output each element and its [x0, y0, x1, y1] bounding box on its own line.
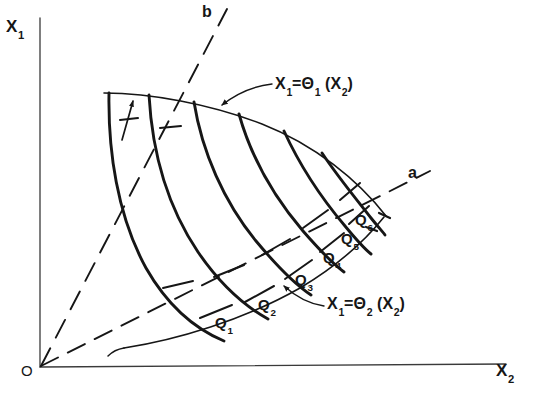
q5-text: Q [341, 230, 353, 247]
cross-tick [262, 239, 290, 255]
axis-group [26, 18, 506, 374]
theta2-arg: X [382, 295, 393, 312]
theta1-arg: X [330, 75, 341, 92]
figure-root: X1 X2 O a b X1=Θ1 (X2) X1=Θ2 (X2) Q1 Q2 … [0, 0, 537, 406]
theta1-theta: Θ [302, 75, 315, 92]
point-label-q1: Q1 [215, 315, 233, 334]
theta1-lhs: X [275, 75, 286, 92]
characteristic-curve-2 [149, 95, 268, 319]
x-axis-label-text: X [496, 361, 508, 380]
theta2-lhs: X [327, 295, 338, 312]
q3-sub: 3 [307, 282, 313, 293]
q6-text: Q [355, 211, 367, 228]
x-axis-line [40, 364, 506, 367]
cross-tick [163, 281, 193, 288]
q6-sub: 6 [367, 222, 373, 233]
cross-tick [340, 183, 360, 200]
q4-text: Q [323, 249, 335, 266]
point-label-q3: Q3 [295, 272, 313, 291]
x-axis-label: X2 [496, 362, 514, 383]
cross-tick [120, 118, 138, 120]
theta2-equals: = [344, 295, 354, 312]
theta1-equals: = [292, 75, 302, 92]
cross-tick [303, 210, 328, 228]
point-label-q4: Q4 [323, 250, 341, 269]
theta2-left-tail [108, 348, 124, 356]
theta2-arg-sub: 2 [394, 306, 400, 318]
theta1-arg-sub: 2 [342, 86, 348, 98]
cross-tick [160, 126, 181, 128]
theta1-equation-label: X1=Θ1 (X2) [275, 76, 353, 95]
point-label-q2: Q2 [258, 297, 276, 316]
cross-tick [214, 265, 244, 277]
q2-sub: 2 [270, 307, 276, 318]
x-axis-label-sub: 2 [508, 373, 514, 385]
y-axis-label-sub: 1 [18, 29, 24, 41]
q1-sub: 1 [227, 325, 233, 336]
q2-text: Q [258, 296, 270, 313]
ray-b-line [41, 9, 227, 366]
theta2-equation-label: X1=Θ2 (X2) [327, 296, 405, 315]
y-axis-label: X1 [6, 18, 24, 39]
diagram-canvas [0, 0, 537, 406]
origin-label: O [21, 363, 33, 378]
ray-b-label: b [202, 4, 212, 20]
characteristic-curve-3 [194, 102, 311, 295]
theta2-lhs-sub: 1 [338, 306, 344, 318]
theta2-paren-close: ) [399, 295, 405, 312]
theta2-theta: Θ [354, 295, 367, 312]
characteristic-curve-1 [109, 93, 224, 341]
theta1-paren-close: ) [347, 75, 353, 92]
y-axis-label-text: X [6, 17, 18, 36]
point-label-q6: Q6 [355, 212, 373, 231]
ray-a-label: a [408, 165, 417, 181]
q5-sub: 5 [353, 241, 359, 252]
q1-text: Q [215, 314, 227, 331]
theta2-theta-sub: 2 [367, 306, 373, 318]
characteristic-curve-6 [322, 153, 385, 235]
q3-text: Q [295, 271, 307, 288]
theta1-lhs-sub: 1 [286, 86, 292, 98]
theta1-theta-sub: 1 [315, 86, 321, 98]
theta1-leader-arrow [222, 84, 272, 105]
point-label-q5: Q5 [341, 231, 359, 250]
q4-sub: 4 [335, 260, 341, 271]
